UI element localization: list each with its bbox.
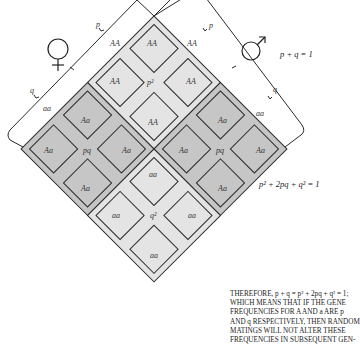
female-q-label: q (30, 86, 34, 95)
cell-aa: aa (149, 170, 157, 179)
cell-Aa: Aa (121, 146, 131, 155)
male-p-label: p (208, 21, 213, 30)
male-symbol-icon (242, 37, 265, 60)
cell-Aa: Aa (255, 146, 265, 155)
caption-line: FREQUENCIES IN SUBSEQUENT GEN- (230, 336, 330, 345)
cell-Aa: Aa (43, 146, 53, 155)
cell-Aa: Aa (80, 116, 90, 125)
strip-label-aa-right: aa (256, 109, 264, 118)
male-q-label: q (273, 85, 277, 94)
cell-AA: AA (146, 39, 157, 48)
center-label-q2: q² (150, 211, 157, 220)
strip-label-AA-left: AA (109, 39, 120, 48)
caption-line: WHICH MEANS THAT IF THE GENE (230, 299, 330, 308)
cell-Aa: Aa (178, 146, 188, 155)
strip-label-aa-left: aa (43, 104, 51, 113)
caption-line: THEREFORE, p + q = p² + 2pq + q² = 1; (230, 290, 330, 299)
punnett-grid (21, 16, 287, 282)
center-label-p2: p² (146, 78, 154, 87)
center-label-pq-left: pq (82, 146, 91, 155)
center-label-pq-right: pq (215, 146, 224, 155)
female-symbol-icon (48, 39, 68, 71)
female-p-label: p (95, 20, 100, 29)
caption-line: FREQUENCIES FOR A AND a ARE p (230, 308, 330, 317)
cell-Aa: Aa (80, 184, 90, 193)
cell-aa: aa (188, 211, 196, 220)
cell-AA: AA (185, 77, 196, 86)
cell-aa: aa (112, 211, 120, 220)
cell-aa: aa (150, 251, 158, 260)
caption: THEREFORE, p + q = p² + 2pq + q² = 1; WH… (230, 290, 330, 345)
caption-line: AND q RESPECTIVELY, THEN RANDOM (230, 318, 330, 327)
cell-Aa: Aa (217, 184, 227, 193)
caption-line: MATINGS WILL NOT ALTER THESE (230, 327, 330, 336)
equation-p-plus-q: p + q = 1 (279, 49, 313, 59)
strip-label-AA-right: AA (186, 39, 197, 48)
cell-AA: AA (147, 118, 158, 127)
equation-hardy-weinberg: p² + 2pq + q² = 1 (258, 179, 320, 189)
cell-AA: AA (109, 77, 120, 86)
cell-Aa: Aa (217, 116, 227, 125)
